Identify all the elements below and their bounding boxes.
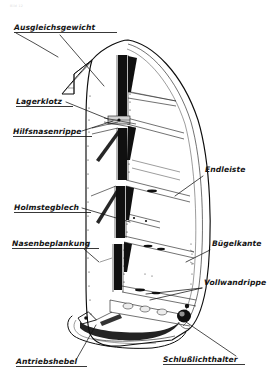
rudder-outer-outline bbox=[86, 40, 210, 346]
label-buegelkante: Bügelkante bbox=[212, 239, 262, 248]
spar-web-upper bbox=[118, 55, 127, 120]
label-nasenbeplankung: Nasenbeplankung bbox=[12, 239, 91, 248]
label-vollwandrippe: Vollwandrippe bbox=[204, 278, 266, 287]
label-lagerklotz: Lagerklotz bbox=[16, 97, 63, 106]
label-hilfsnasenrippe: Hilfsnasenrippe bbox=[13, 127, 82, 136]
label-holmstegblech: Holmstegblech bbox=[14, 203, 79, 212]
diagram-root: Bild 12 bbox=[0, 0, 280, 380]
spar-web-bottom bbox=[114, 244, 122, 290]
corner-artifact-text: Bild 12 bbox=[10, 4, 23, 8]
leader-ausgleichsgewicht bbox=[16, 33, 58, 57]
label-ausgleichsgewicht: Ausgleichsgewicht bbox=[13, 23, 95, 32]
rudder-cutaway-illustration: Bild 12 bbox=[0, 0, 280, 380]
rudder-body bbox=[68, 40, 210, 348]
label-endleiste: Endleiste bbox=[205, 165, 245, 174]
label-antriebshebel: Antriebshebel bbox=[15, 357, 77, 366]
leader-schlusslichthalter bbox=[186, 322, 236, 356]
label-schlusslichthalter: Schlußlichthalter bbox=[163, 355, 239, 364]
spar-web-mid bbox=[118, 128, 127, 180]
